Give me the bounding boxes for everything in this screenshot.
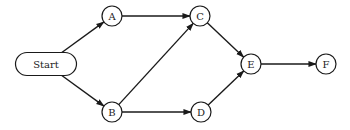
node-c: C [190,6,210,26]
node-d: D [191,102,211,122]
node-label: E [247,59,254,70]
edge-b-to-c [119,23,193,104]
node-label: Start [33,59,59,70]
node-label: B [108,107,115,118]
node-b: B [102,102,122,122]
edges-group [62,16,316,112]
edge-start-to-a [62,22,104,53]
node-label: C [196,11,204,22]
node-a: A [102,6,122,26]
edge-start-to-b [62,76,104,107]
edge-d-to-e [208,71,244,105]
flow-diagram: StartABCDEF [0,0,350,130]
node-f: F [316,54,336,74]
node-label: F [323,59,330,70]
node-start: Start [16,53,77,76]
node-label: A [107,11,116,22]
node-e: E [241,54,261,74]
node-label: D [197,107,205,118]
edge-c-to-e [207,23,243,57]
